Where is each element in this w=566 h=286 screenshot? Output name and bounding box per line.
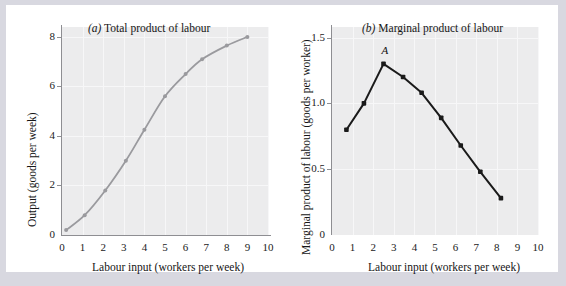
series-data-point [184,72,188,76]
series-data-point [163,94,167,98]
y-tick-mark [57,37,61,38]
panel-b-title: (b) Marginal product of labour [362,22,503,34]
data-series-group [332,27,548,245]
figure-root: 01234567891002468 (a) Total product of l… [0,0,566,286]
series-data-point [142,128,146,132]
series-data-point [83,213,87,217]
y-tick-mark [327,38,331,39]
y-tick-mark [327,169,331,170]
series-data-point [419,91,424,96]
y-tick-label: 8 [31,30,55,42]
y-tick-mark [57,136,61,137]
data-series-group [62,27,278,245]
panel-a-title: (a) Total product of labour [88,22,210,34]
series-line [66,37,247,230]
series-data-point [499,196,504,201]
figure-card: 01234567891002468 (a) Total product of l… [6,5,558,272]
y-tick-label: 6 [31,79,55,91]
plot-area-marginal-product: 01234567891000.51.01.5A [332,27,538,235]
annotation-label-a: A [382,44,389,56]
y-tick-mark [57,185,61,186]
series-data-point [344,127,349,132]
y-tick-label: 0 [31,228,55,240]
panel-b-title-prefix: (b) [362,22,375,34]
series-data-point [381,62,386,67]
series-data-point [64,228,68,232]
y-tick-mark [327,103,331,104]
panel-b-yaxis-title: Marginal product of labour (goods per wo… [300,39,312,255]
panel-marginal-product: 01234567891000.51.01.5A (b) Marginal pro… [282,5,558,272]
series-line [346,64,500,198]
series-data-point [439,116,444,121]
panel-b-title-text: Marginal product of labour [378,22,503,34]
panel-a-title-text: Total product of labour [104,22,210,34]
panel-b-xaxis-title: Labour input (workers per week) [324,261,564,273]
series-data-point [458,143,463,148]
series-data-point [225,44,229,48]
series-data-point [103,188,107,192]
series-data-point [124,159,128,163]
panel-total-product: 01234567891002468 (a) Total product of l… [6,5,282,272]
series-data-point [401,75,406,80]
panel-a-xaxis-title: Labour input (workers per week) [48,261,288,273]
series-data-point [362,101,367,106]
y-tick-mark [57,86,61,87]
plot-area-total-product: 01234567891002468 [62,27,268,235]
series-data-point [200,57,204,61]
series-data-point [245,35,249,39]
panel-a-yaxis-title: Output (goods per week) [26,112,38,227]
series-data-point [478,170,483,175]
panel-a-title-prefix: (a) [88,22,101,34]
